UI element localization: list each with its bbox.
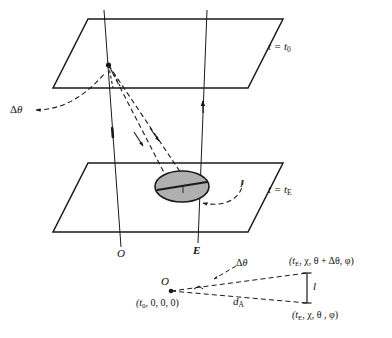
source-object-ellipse	[155, 171, 209, 202]
inset-delta-theta-label: Δθ	[236, 258, 247, 268]
inset-delta-theta-pointer	[214, 266, 236, 279]
observer-worldline-label: O	[117, 248, 125, 259]
top-plane	[53, 19, 283, 88]
delta-theta-pointer-main	[36, 74, 104, 110]
bottom-plane-time-label: t = tE	[268, 184, 292, 197]
ray-direction-arrows	[134, 128, 159, 146]
light-ray-lower	[109, 65, 175, 192]
light-ray-upper	[109, 65, 190, 185]
emitter-worldline-label: E	[193, 245, 200, 256]
observer-worldline	[104, 10, 121, 247]
spacetime-diagram-figure: t = t0 t = tE Δθ l O E O (t0, 0, 0, 0) Δ…	[0, 0, 392, 338]
inset-upper-point-coordinates: (tE, χ, θ + Δθ, φ)	[289, 256, 354, 268]
inset-angular-diameter-distance-label: dA	[233, 296, 244, 309]
inset-length-label: l	[313, 281, 316, 292]
delta-theta-label-main: Δθ	[10, 104, 22, 115]
proper-length-label-main: l	[240, 178, 243, 189]
diagram-canvas	[0, 0, 392, 338]
top-plane-time-label: t = t0	[268, 41, 291, 54]
inset-origin-label: O	[161, 276, 169, 287]
emitter-worldline	[198, 10, 207, 243]
inset-upper-side	[171, 273, 307, 291]
inset-lower-point-coordinates: (tE, χ, θ , φ)	[292, 310, 338, 322]
inset-origin-coordinates: (t0, 0, 0, 0)	[136, 298, 179, 310]
